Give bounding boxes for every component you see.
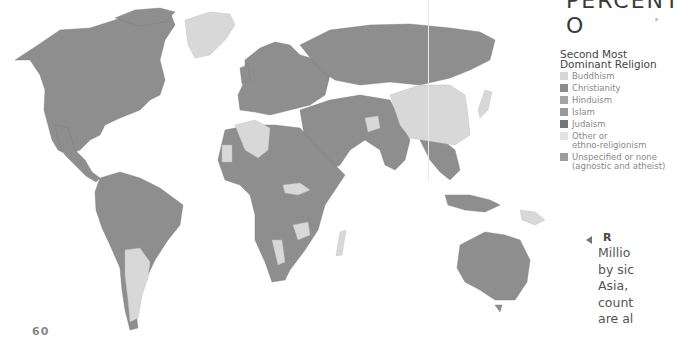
- legend-item-other: Other or ethno-religionism: [560, 132, 670, 150]
- swatch-icon: [560, 132, 568, 140]
- swatch-icon: [560, 108, 568, 116]
- legend-item-hinduism: Hinduism: [560, 96, 670, 105]
- caption-line: Millio: [598, 245, 634, 262]
- swatch-icon: [560, 120, 568, 128]
- caption-line: count: [598, 295, 634, 312]
- swatch-icon: [560, 96, 568, 104]
- legend-label: Buddhism: [572, 72, 614, 81]
- legend-item-christianity: Christianity: [560, 84, 670, 93]
- page-title-fragment: PERCENT O: [566, 0, 678, 38]
- swatch-icon: [560, 153, 568, 161]
- caption-arrow-icon: [586, 236, 592, 244]
- legend-item-unspecified: Unspecified or none (agnostic and atheis…: [560, 153, 670, 171]
- world-map: [0, 0, 560, 345]
- legend-title: Second Most Dominant Religion: [560, 49, 670, 69]
- legend-label-line2: (agnostic and atheist): [572, 162, 665, 171]
- legend-label: Islam: [572, 108, 595, 117]
- legend-label: Hinduism: [572, 96, 612, 105]
- swatch-icon: [560, 72, 568, 80]
- legend-label: Unspecified or none (agnostic and atheis…: [572, 153, 665, 171]
- legend-item-judaism: Judaism: [560, 120, 670, 129]
- region-japan: [478, 90, 492, 118]
- region-greenland: [185, 12, 235, 58]
- region-west-sahara: [222, 145, 232, 162]
- page-gutter-line: [428, 0, 429, 180]
- legend-label: Christianity: [572, 84, 621, 93]
- legend-title-line2: Dominant Religion: [560, 59, 670, 69]
- caption-body: Millio by sic Asia, count are al: [598, 245, 634, 328]
- caption-line: are al: [598, 311, 634, 328]
- region-north-america: [15, 12, 175, 155]
- caption-line: Asia,: [598, 278, 634, 295]
- legend-label: Other or ethno-religionism: [572, 132, 646, 150]
- region-madagascar: [336, 230, 346, 256]
- region-russia: [300, 24, 495, 85]
- legend-item-islam: Islam: [560, 108, 670, 117]
- legend: Second Most Dominant Religion Buddhism C…: [560, 49, 670, 174]
- region-indonesia: [445, 195, 500, 212]
- legend-label-line2: ethno-religionism: [572, 141, 646, 150]
- page-number: 60: [32, 325, 49, 338]
- caption-line: by sic: [598, 262, 634, 279]
- legend-item-buddhism: Buddhism: [560, 72, 670, 81]
- region-png: [520, 210, 545, 225]
- legend-label: Judaism: [572, 120, 606, 129]
- region-australia: [457, 232, 530, 300]
- region-tasmania: [495, 305, 502, 312]
- swatch-icon: [560, 84, 568, 92]
- decorative-dot: [655, 18, 658, 21]
- caption-heading: R: [603, 231, 612, 244]
